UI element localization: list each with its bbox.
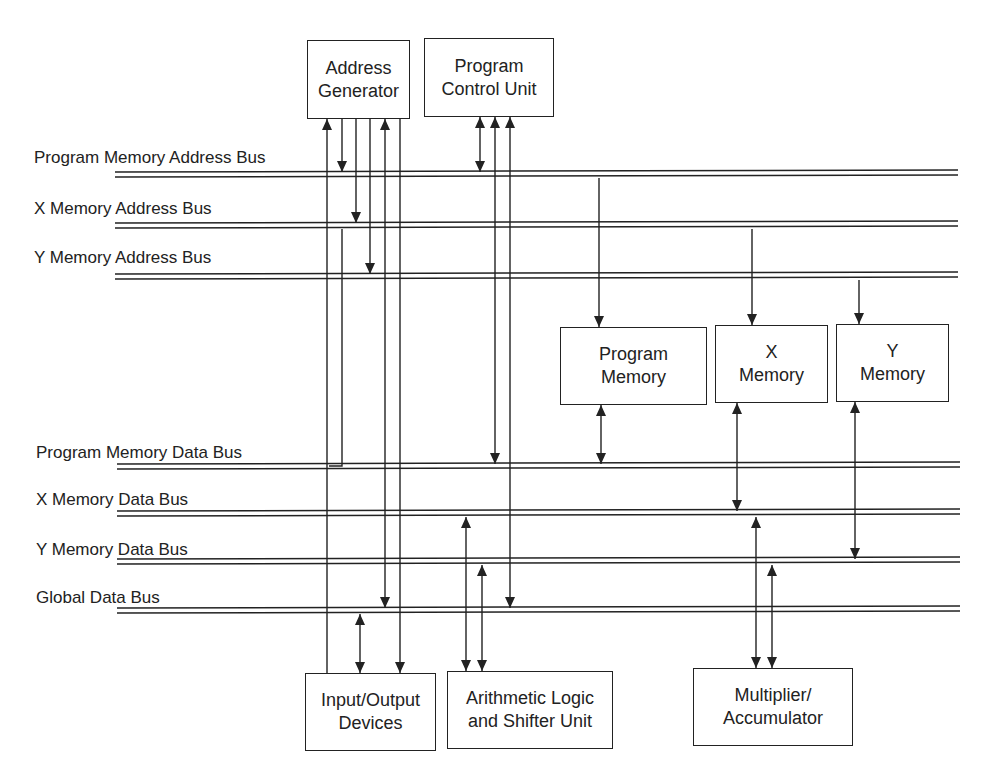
arrowhead-up-icon (322, 119, 332, 130)
alu-shifter-label-line: and Shifter Unit (468, 710, 592, 733)
arrowhead-down-icon (461, 660, 471, 671)
ymab-label: Y Memory Address Bus (34, 248, 211, 268)
io-devices-block: Input/OutputDevices (305, 673, 436, 751)
pmab-bus (115, 170, 958, 177)
pmdb-label: Program Memory Data Bus (36, 443, 242, 463)
arrowhead-up-icon (380, 119, 390, 130)
arrowhead-up-icon (477, 565, 487, 576)
program-control-unit-block: ProgramControl Unit (424, 38, 554, 117)
arrowhead-down-icon (475, 161, 485, 172)
x-memory-label-line: X (765, 341, 777, 364)
xmab-bus (115, 221, 958, 228)
arrowhead-up-icon (596, 405, 606, 416)
alu-shifter-block: Arithmetic Logicand Shifter Unit (447, 671, 613, 749)
x-memory-block: XMemory (715, 325, 828, 403)
program-control-unit-label-line: Control Unit (441, 78, 536, 101)
multiplier-accumulator-block: Multiplier/Accumulator (693, 668, 853, 746)
address-generator-label-line: Generator (318, 80, 399, 103)
arrowhead-down-icon (594, 316, 604, 327)
program-control-unit-label-line: Program (454, 55, 523, 78)
alu-shifter-label-line: Arithmetic Logic (466, 687, 594, 710)
arrowhead-down-icon (365, 263, 375, 274)
io-devices-label-line: Devices (338, 712, 402, 735)
arrowhead-down-icon (747, 314, 757, 325)
arrowhead-down-icon (767, 657, 777, 668)
ymdb-bus (117, 557, 960, 564)
gdb-label: Global Data Bus (36, 588, 160, 608)
address-generator-label-line: Address (325, 57, 391, 80)
xmdb-bus (117, 509, 960, 516)
arrowhead-down-icon (854, 313, 864, 324)
gdb-bus (117, 606, 960, 613)
arrowhead-up-icon (461, 517, 471, 528)
arrowhead-up-icon (850, 402, 860, 413)
multiplier-accumulator-label-line: Multiplier/ (734, 684, 811, 707)
address-generator-block: AddressGenerator (307, 40, 410, 119)
x-memory-label-line: Memory (739, 364, 804, 387)
arrowhead-up-icon (767, 565, 777, 576)
y-memory-block: YMemory (836, 324, 949, 402)
arrowhead-up-icon (475, 117, 485, 128)
program-memory-block: ProgramMemory (560, 327, 707, 405)
io-devices-label-line: Input/Output (321, 689, 420, 712)
ymab-bus (115, 272, 958, 279)
arrowhead-down-icon (477, 660, 487, 671)
arrowhead-up-icon (751, 517, 761, 528)
y-memory-label-line: Memory (860, 363, 925, 386)
program-memory-label-line: Program (599, 343, 668, 366)
xmab-label: X Memory Address Bus (34, 199, 212, 219)
y-memory-label-line: Y (886, 340, 898, 363)
arrowhead-down-icon (395, 662, 405, 673)
pmab-label: Program Memory Address Bus (34, 148, 265, 168)
arrowhead-down-icon (337, 161, 347, 172)
xmdb-label: X Memory Data Bus (36, 490, 188, 510)
arrowhead-up-icon (490, 117, 500, 128)
arrowhead-down-icon (351, 212, 361, 223)
program-memory-label-line: Memory (601, 366, 666, 389)
arrowhead-up-icon (355, 614, 365, 625)
arrowhead-down-icon (355, 662, 365, 673)
arrowhead-down-icon (751, 657, 761, 668)
arrowhead-up-icon (505, 117, 515, 128)
connector-xmab-to-pmdb (329, 229, 342, 466)
pmdb-bus (117, 462, 960, 469)
multiplier-accumulator-label-line: Accumulator (723, 707, 823, 730)
architecture-diagram: Program Memory Address BusX Memory Addre… (0, 0, 990, 783)
arrowhead-up-icon (732, 403, 742, 414)
arrowhead-down-icon (380, 597, 390, 608)
ymdb-label: Y Memory Data Bus (36, 540, 188, 560)
